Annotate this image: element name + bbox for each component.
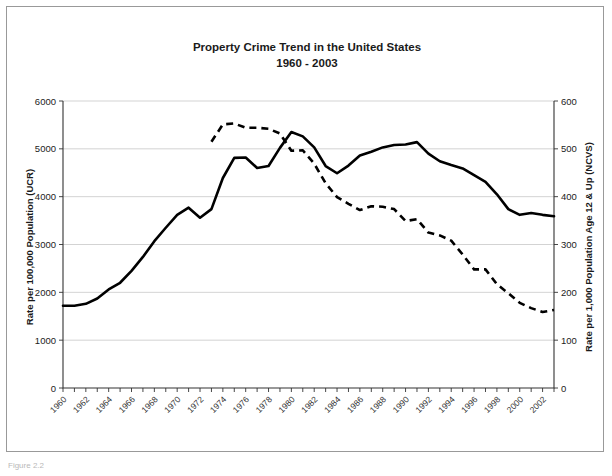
- x-tick-label: 2002: [528, 394, 549, 415]
- x-tick-label: 1986: [345, 394, 366, 415]
- y2-tick-label: 500: [561, 143, 577, 154]
- y-axis-title: Rate per 100,000 Population (UCR): [24, 169, 35, 325]
- y2-axis-ticks: 0100200300400500600: [554, 96, 577, 394]
- y-axis-ticks: 0100020003000400050006000: [35, 96, 63, 394]
- x-tick-label: 1988: [368, 394, 389, 415]
- property-crime-trend-chart: Property Crime Trend in the United State…: [7, 7, 603, 451]
- y2-tick-label: 100: [561, 335, 577, 346]
- y2-tick-label: 200: [561, 287, 577, 298]
- y2-tick-label: 600: [561, 96, 577, 107]
- y2-tick-label: 0: [561, 383, 566, 394]
- x-tick-label: 2000: [505, 394, 526, 415]
- x-tick-label: 1996: [459, 394, 480, 415]
- y-tick-label: 4000: [35, 191, 56, 202]
- y-tick-label: 3000: [35, 239, 56, 250]
- x-tick-label: 1978: [253, 394, 274, 415]
- x-tick-label: 1964: [94, 394, 115, 415]
- x-axis-ticks: 1960196219641966196819701972197419761978…: [48, 388, 554, 415]
- y-tick-label: 2000: [35, 287, 56, 298]
- chart-title: Property Crime Trend in the United State…: [193, 41, 421, 53]
- x-tick-label: 1960: [48, 394, 69, 415]
- x-tick-label: 1990: [391, 394, 412, 415]
- chart-subtitle: 1960 - 2003: [276, 57, 337, 69]
- y2-axis-title: Rate per 1,000 Population Age 12 & Up (N…: [583, 142, 594, 352]
- x-tick-label: 1980: [276, 394, 297, 415]
- x-tick-label: 1970: [162, 394, 183, 415]
- x-tick-label: 1976: [231, 394, 252, 415]
- x-tick-label: 1962: [71, 394, 92, 415]
- series-line-ncvs: [211, 123, 554, 311]
- x-tick-label: 1994: [436, 394, 457, 415]
- figure-frame: Property Crime Trend in the United State…: [6, 6, 604, 452]
- gridlines: [63, 101, 554, 340]
- x-tick-label: 1966: [116, 394, 137, 415]
- x-tick-label: 1968: [139, 394, 160, 415]
- y-tick-label: 0: [51, 383, 56, 394]
- y2-tick-label: 400: [561, 191, 577, 202]
- x-tick-label: 1998: [482, 394, 503, 415]
- y-tick-label: 6000: [35, 96, 56, 107]
- x-tick-label: 1972: [185, 394, 206, 415]
- x-tick-label: 1992: [413, 394, 434, 415]
- y2-tick-label: 300: [561, 239, 577, 250]
- x-tick-label: 1974: [208, 394, 229, 415]
- y-tick-label: 1000: [35, 335, 56, 346]
- figure-caption-fragment: Figure 2.2: [8, 461, 44, 470]
- y-tick-label: 5000: [35, 143, 56, 154]
- x-tick-label: 1984: [322, 394, 343, 415]
- x-tick-label: 1982: [299, 394, 320, 415]
